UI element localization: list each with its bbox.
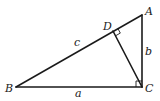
side-label-c: c [74, 36, 80, 49]
side-label-a: a [75, 87, 82, 100]
altitude-CD [113, 31, 142, 87]
vertex-label-C: C [145, 82, 154, 95]
triangle-diagram: A D B C c b a [0, 0, 160, 101]
side-label-b: b [145, 45, 152, 58]
vertex-label-D: D [102, 20, 112, 33]
vertex-label-B: B [4, 82, 13, 95]
vertex-label-A: A [144, 5, 153, 18]
